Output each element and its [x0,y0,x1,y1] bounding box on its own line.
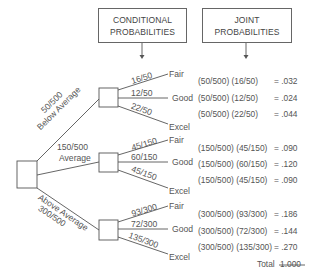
leaf-prob: 12/50 [131,88,153,98]
node-below-average [99,88,118,107]
joint-value: = .090 [274,175,298,185]
joint-value: = .120 [274,159,298,169]
outcome-label: Good [172,93,193,103]
joint-arrow-head-icon [244,55,249,59]
outcome-label: Excel [169,252,190,262]
joint-expr: (300/500) (135/300) [198,242,272,252]
joint-value: = .270 [274,242,298,252]
average-label: Average [59,153,91,163]
joint-value: = .032 [274,76,298,86]
node-average [99,153,118,172]
outcome-label: Good [172,157,193,167]
leaf-prob: 72/300 [131,219,157,229]
joint-expr: (300/500) (93/300) [198,209,267,219]
outcome-label: Good [172,224,193,234]
outcome-label: Fair [169,69,184,79]
conditional-arrow-head-icon [140,55,145,59]
branch-average [37,162,99,175]
joint-expr: (50/500) (12/50) [198,93,258,103]
outcome-label: Fair [169,135,184,145]
header-line: CONDITIONAL [113,15,172,25]
outcome-label: Excel [169,186,190,196]
total-label: Total [257,259,275,269]
joint-expr: (50/500) (16/50) [198,76,258,86]
average-prob: 150/500 [57,142,88,152]
conditional-probabilities-header: CONDITIONALPROBABILITIES [98,8,187,43]
header-line: JOINT [234,15,259,25]
joint-value: = .024 [274,93,298,103]
header-line: PROBABILITIES [214,27,279,37]
leaf-prob: 60/150 [131,152,157,162]
outcome-label: Fair [169,201,184,211]
joint-value: = .044 [274,109,298,119]
joint-value: = .186 [274,209,298,219]
joint-expr: (300/500) (72/300) [198,226,267,236]
joint-expr: (150/500) (45/150) [198,143,267,153]
joint-expr: (150/500) (45/150) [198,175,267,185]
outcome-label: Excel [169,122,190,132]
joint-expr: (50/500) (22/50) [198,109,258,119]
joint-expr: (150/500) (60/150) [198,159,267,169]
joint-value: = .144 [274,226,298,236]
root-node [17,161,37,188]
node-above-average [99,220,118,240]
total-value: 1.000 [280,259,301,269]
joint-value: = .090 [274,143,298,153]
joint-probabilities-header: JOINTPROBABILITIES [202,8,292,43]
header-line: PROBABILITIES [110,27,175,37]
